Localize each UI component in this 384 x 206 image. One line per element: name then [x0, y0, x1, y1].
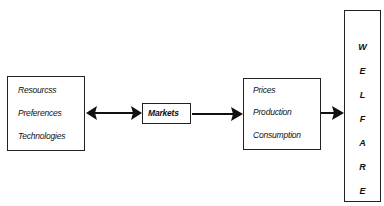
bidirectional-arrow-icon	[86, 106, 142, 120]
connector-arrows	[0, 0, 384, 206]
arrow-right-icon	[192, 107, 243, 121]
arrow-right-icon	[321, 106, 344, 120]
